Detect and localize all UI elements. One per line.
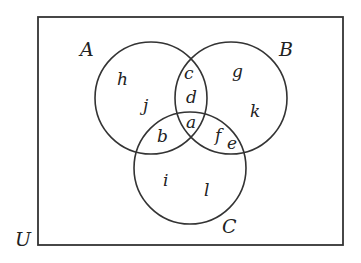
set-b-label: B: [278, 38, 293, 60]
region-label-d: d: [186, 87, 197, 107]
region-label-l: l: [204, 180, 209, 200]
region-label-b: b: [157, 126, 168, 146]
set-a-label: A: [78, 38, 94, 60]
region-label-k: k: [250, 101, 260, 121]
region-label-f: f: [213, 125, 224, 145]
universe-label: U: [15, 228, 32, 250]
region-label-c: c: [184, 63, 194, 83]
region-label-g: g: [232, 61, 243, 81]
region-label-j: j: [139, 95, 149, 115]
region-label-h: h: [117, 69, 128, 89]
region-label-i: i: [163, 170, 168, 190]
region-label-e: e: [227, 133, 237, 153]
set-c-label: C: [222, 215, 237, 237]
venn-diagram: U A B C h j c d g k a b f e i l: [0, 0, 361, 263]
region-label-a: a: [186, 112, 196, 132]
